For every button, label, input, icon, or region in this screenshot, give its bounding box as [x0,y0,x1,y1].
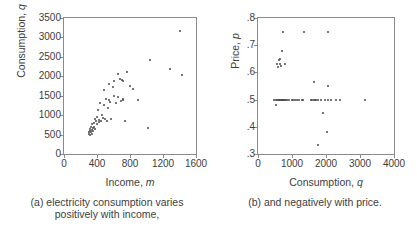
data-point [327,85,329,87]
data-point [288,99,290,101]
panel-a: 0500100015002000250030003500040080012001… [0,0,208,231]
y-axis-title-a: Consumption, q [15,0,27,91]
y-tick-label: .8 [247,13,255,23]
data-point [108,83,110,85]
data-point [105,98,107,100]
data-point [137,99,139,101]
y-tick-label: .3 [247,149,255,159]
data-point [129,85,131,87]
y-tick-label: .6 [247,67,255,77]
data-point [284,63,286,65]
x-axis-title-b-var: q [357,176,363,188]
y-tick-label: .7 [247,40,255,50]
y-axis-title-b-main: Price, [229,42,241,69]
x-tick-label: 1200 [152,159,174,169]
x-tick-label: 2000 [315,159,337,169]
data-point [109,101,111,103]
data-point [302,99,304,101]
x-axis-title-a-var: m [146,176,155,188]
scatter-plot-a: 0500100015002000250030003500040080012001… [63,17,197,155]
y-tick-label: .5 [247,95,255,105]
data-point [113,95,115,97]
data-point [107,107,109,109]
data-point [103,104,105,106]
data-point [93,122,95,124]
y-axis-title-a-main: Consumption, [15,13,27,78]
data-point [100,120,102,122]
data-point [281,50,283,52]
data-point [110,118,112,120]
data-point [276,63,278,65]
y-axis-title-a-var: q [15,4,27,10]
data-points-b [258,18,394,154]
data-point [277,66,279,68]
data-point [364,99,366,101]
data-point [117,96,119,98]
x-axis-title-a: Income, m [63,176,197,188]
y-tick-label: 1500 [39,91,61,101]
data-point [303,31,305,33]
y-axis-title-b: Price, p [229,1,241,101]
data-point [92,130,94,132]
data-point [98,121,100,123]
caption-b: (b) and negatively with price. [213,196,417,208]
data-point [91,133,93,135]
data-point [149,59,151,61]
y-tick-label: 0 [55,149,61,159]
y-tick-label: 2500 [39,52,61,62]
caption-b-line1: (b) and negatively with price. [213,196,417,208]
data-point [298,99,300,101]
data-point [113,80,115,82]
data-point [335,99,337,101]
data-point [181,74,183,76]
data-point [324,99,326,101]
data-point [327,31,329,33]
x-axis-title-b-main: Consumption, [289,176,354,188]
data-point [327,99,329,101]
data-point [112,86,114,88]
data-point [317,144,319,146]
data-point [122,98,124,100]
data-point [96,123,98,125]
y-tick-label: 3000 [39,32,61,42]
data-point [122,80,124,82]
data-point [326,131,328,133]
data-point [320,99,322,101]
data-point [94,128,96,130]
data-point [322,112,324,114]
data-point [115,102,117,104]
data-point [282,31,284,33]
y-tick-label: 2000 [39,71,61,81]
y-tick-label: 500 [44,130,61,140]
x-tick-label: 1600 [185,159,207,169]
x-tick-label: 1000 [281,159,303,169]
x-tick-label: 400 [89,159,106,169]
caption-a-line2: positively with income, [6,208,208,220]
data-point [126,71,128,73]
caption-a: (a) electricity consumption varies posit… [6,196,208,220]
data-point [97,109,99,111]
x-tick-label: 4000 [383,159,405,169]
data-point [124,120,126,122]
data-point [339,99,341,101]
x-axis-title-a-main: Income, [105,176,142,188]
data-point [330,99,332,101]
panel-b: .3.4.5.6.7.801000200030004000 Price, p C… [209,0,417,231]
data-point [101,114,103,116]
x-tick-label: 800 [122,159,139,169]
data-point [275,104,277,106]
y-tick-label: 3500 [39,13,61,23]
scatter-plot-b: .3.4.5.6.7.801000200030004000 [257,17,395,155]
data-point [106,120,108,122]
figure-container: 0500100015002000250030003500040080012001… [0,0,417,231]
data-point [313,81,315,83]
data-point [169,68,171,70]
data-point [279,58,281,60]
y-axis-title-b-var: p [229,33,241,39]
data-point [103,89,105,91]
data-point [99,102,101,104]
data-point [117,73,119,75]
data-point [280,65,282,67]
x-tick-label: 3000 [349,159,371,169]
x-tick-label: 0 [61,159,67,169]
